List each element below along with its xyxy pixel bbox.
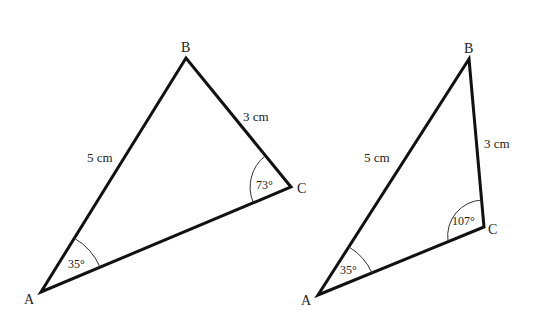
- triangle-1-side-bc-label: 3 cm: [243, 109, 269, 124]
- triangle-2-vertex-c-label: C: [488, 222, 497, 237]
- triangle-1-vertex-c-label: C: [297, 181, 306, 196]
- triangle-2-side-bc-label: 3 cm: [484, 136, 510, 151]
- triangle-1-angle-c-label: 73°: [256, 178, 273, 192]
- triangle-1-side-ab-label: 5 cm: [87, 150, 113, 165]
- triangle-1-vertex-a-label: A: [24, 292, 35, 307]
- triangle-2: B C A 5 cm 3 cm 35° 107°: [301, 41, 510, 308]
- triangle-2-vertex-a-label: A: [301, 293, 312, 308]
- triangle-2-side-ab-label: 5 cm: [364, 150, 390, 165]
- triangle-1: B C A 5 cm 3 cm 35° 73°: [24, 40, 306, 307]
- triangle-2-angle-a-label: 35°: [340, 263, 357, 277]
- triangle-2-angle-c-label: 107°: [452, 214, 475, 228]
- triangle-2-outline: [318, 59, 484, 295]
- diagram-canvas: B C A 5 cm 3 cm 35° 73° B C A 5 cm 3 cm …: [0, 0, 536, 321]
- triangle-2-vertex-b-label: B: [464, 41, 473, 56]
- triangle-1-angle-a-label: 35°: [68, 257, 85, 271]
- triangle-1-vertex-b-label: B: [181, 40, 190, 55]
